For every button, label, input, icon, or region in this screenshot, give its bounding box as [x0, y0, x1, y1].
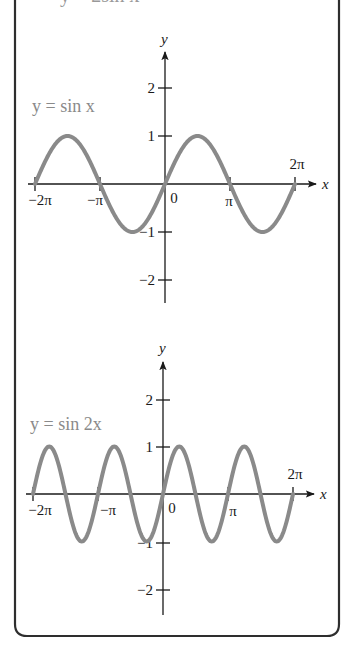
sin-x-label: y = sin x [32, 96, 95, 116]
y-tick-2: 2 [148, 80, 156, 96]
y-axis-label: y [157, 340, 166, 356]
x-axis-label: x [319, 486, 327, 502]
x-tick-pi: π [229, 503, 237, 519]
x-tick-2pi: 2π [289, 156, 305, 172]
sin-2x-label: y = sin 2x [30, 414, 102, 434]
x-tick-neg2pi: −2π [28, 502, 52, 518]
x-tick-2pi: 2π [287, 466, 303, 482]
y-tick-2: 2 [146, 392, 154, 408]
x-tick-0: 0 [168, 500, 176, 516]
y-axis-label: y [159, 31, 168, 47]
cut-off-header-text: y = 2sin x [60, 0, 140, 7]
sin-2x-graph: y x 2 1 −1 −2 −2π −π 0 π 2π y = s [26, 340, 327, 615]
x-tick-negpi: −π [87, 192, 103, 208]
x-tick-pi: π [225, 193, 233, 209]
x-axis-label: x [321, 176, 329, 192]
y-tick-neg2: −2 [139, 272, 155, 288]
x-tick-0: 0 [170, 190, 178, 206]
x-tick-negpi: −π [100, 502, 116, 518]
figure-canvas: y = 2sin x y x 2 1 −1 −2 [0, 0, 358, 651]
y-tick-1: 1 [148, 128, 156, 144]
y-tick-neg2: −2 [137, 582, 153, 598]
sin-x-graph: y x 2 1 −1 −2 −2π −π 0 π 2π [28, 31, 329, 303]
y-tick-1: 1 [146, 439, 154, 455]
x-tick-neg2pi: −2π [28, 192, 52, 208]
